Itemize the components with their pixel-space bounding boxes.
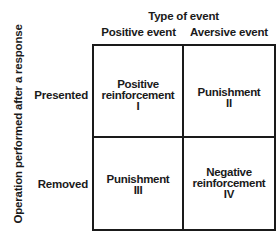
column-header-aversive-event: Aversive event [184,26,274,38]
cell-punishment-ii: Punishment II [184,46,274,138]
cell-numeral: II [198,98,261,109]
cell-punishment-iii: Punishment III [94,138,184,230]
row-axis-title: Operation performed after a response [12,19,24,229]
cell-positive-reinforcement: Positive reinforcement I [94,46,184,138]
column-axis-title: Type of event [93,10,274,22]
cell-negative-reinforcement: Negative reinforcement IV [184,138,274,230]
row-header-removed: Removed [28,178,88,190]
row-header-presented: Presented [28,89,88,101]
column-header-positive-event: Positive event [93,26,184,38]
cell-numeral: IV [193,189,266,200]
contingency-matrix: Positive reinforcement I Punishment II P… [92,44,276,231]
cell-numeral: I [102,101,175,112]
cell-numeral: III [107,185,170,196]
